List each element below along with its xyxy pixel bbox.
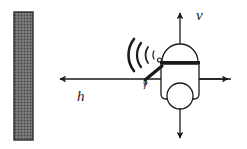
horizontal-axis-label: h xyxy=(77,89,85,104)
sensor-arm xyxy=(145,66,162,80)
angle-label: γ xyxy=(143,78,147,89)
wall xyxy=(14,12,33,140)
sonar-arc-2 xyxy=(137,43,141,67)
sensor-pivot-nub xyxy=(158,58,162,62)
sonar-arc-1 xyxy=(128,39,134,71)
sonar-arc-4 xyxy=(153,51,154,59)
figure-canvas: v h γ xyxy=(0,0,247,149)
robot-dome-head xyxy=(162,44,198,62)
wall-rect xyxy=(14,12,33,140)
diagram-svg xyxy=(0,0,247,149)
sonar-waves xyxy=(128,39,154,71)
vertical-axis-label: v xyxy=(196,8,203,23)
sonar-arc-3 xyxy=(145,47,148,63)
robot-wheel xyxy=(167,83,193,109)
